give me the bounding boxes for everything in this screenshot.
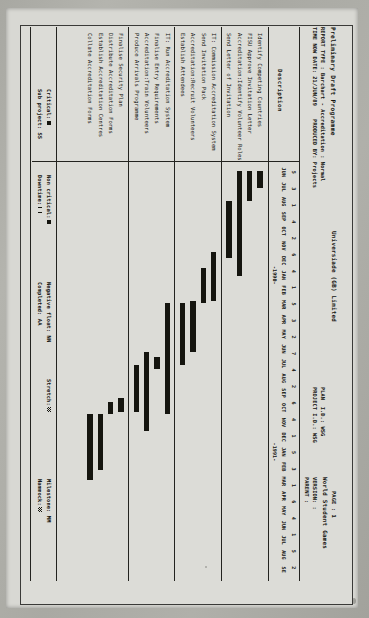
timescale-week-label: 6	[290, 401, 297, 404]
stretch-swatch-icon	[47, 407, 51, 411]
timescale-week-label: 4	[290, 517, 297, 520]
timescale-month-label: AUG	[280, 197, 287, 207]
task-row: FISU Approve Invitation Letter	[244, 27, 254, 581]
timescale-week-label: 5	[290, 451, 297, 454]
timescale-month-label: DEC	[280, 256, 287, 266]
scanned-page-background: Preliminary Draft Programme REPORT TYPE …	[0, 0, 369, 618]
timescale-month-label: APR	[280, 315, 287, 325]
timescale-month-label: NOV	[280, 241, 287, 251]
timescale-week-label: 6	[290, 500, 297, 503]
timescale-month-label: FEB	[280, 285, 287, 295]
timescale-month-label: MAR	[280, 477, 287, 487]
timescale-week-label: 3	[290, 467, 297, 470]
timescale-axis: JUNJULAUGSEPOCTNOVDECJANFEBMARAPRMAYJUNJ…	[269, 165, 297, 577]
task-description: Produce Arrivals Programme	[132, 33, 139, 120]
timescale-week-label: 2	[290, 237, 297, 240]
timescale-month-label: JUL	[280, 535, 287, 545]
timescale-week-label: 4	[290, 418, 297, 421]
timescale-week-label: 2	[290, 566, 297, 569]
task-row: Send Invitation Pack	[198, 27, 208, 581]
task-bar	[98, 414, 103, 470]
task-bar	[190, 301, 195, 353]
timescale-month-label: JAN	[280, 271, 287, 281]
gantt-chart-document: Preliminary Draft Programme REPORT TYPE …	[14, 17, 345, 595]
description-column-header: Description	[275, 69, 283, 112]
task-bar	[118, 398, 123, 412]
group-divider	[175, 27, 176, 581]
timescale-month-label: MAR	[280, 300, 287, 310]
task-description: Finalise Security Plan	[117, 33, 124, 107]
task-row: Accreditation:Train Volunteers	[141, 27, 151, 581]
legend-rule	[56, 27, 57, 581]
task-description: Send Invitation Pack	[199, 33, 206, 100]
task-bar	[87, 414, 92, 480]
timescale-month-label: JUN	[280, 168, 287, 178]
group-divider	[128, 27, 129, 581]
task-description: Send Letter of Invitation	[225, 33, 232, 117]
timescale-week-label: 1	[290, 286, 297, 289]
task-row: Identify Competing Countries	[255, 27, 265, 581]
task-bar	[165, 303, 170, 414]
task-bar	[144, 352, 149, 430]
scan-speck	[205, 566, 207, 568]
timescale-week-label: 1	[290, 533, 297, 536]
project-id: PROJECT I.D.: WSG	[311, 387, 318, 443]
task-bar	[134, 365, 139, 412]
legend-hammock-label: Hammock:	[38, 479, 44, 506]
task-description: Identify Competing Countries	[256, 33, 263, 127]
timescale-week-label: 4	[290, 369, 297, 372]
legend-stretch: Stretch:	[45, 379, 52, 412]
legend-completed-value: AA	[38, 319, 44, 326]
timescale-month-label: JUN	[280, 344, 287, 354]
timescale-month-label: AUG	[280, 550, 287, 560]
timescale-month-label: AUG	[280, 374, 287, 384]
timescale-year-label: -1991-	[271, 443, 278, 462]
timescale-month-label: MAY	[280, 329, 287, 339]
task-description: Distribute Accreditation Forms	[107, 33, 114, 134]
timescale-month-label: OCT	[280, 226, 287, 236]
task-bar	[180, 303, 185, 365]
task-row: Finalise Entry Requirements	[152, 27, 162, 581]
legend-subproject-value: SS	[38, 133, 44, 140]
report-type-line: REPORT TYPE : Barchart - Accreditation :…	[319, 27, 326, 182]
group-divider	[221, 27, 222, 581]
task-description: FISU Approve Invitation Letter	[246, 33, 253, 134]
task-bar	[226, 201, 231, 257]
timescale-month-label: OCT	[280, 403, 287, 413]
parent-label: PARENT :	[303, 477, 310, 503]
noncritical-swatch-icon	[47, 220, 51, 224]
timescale-week-label: 4	[290, 220, 297, 223]
legend-completed: Completed: AA	[36, 282, 43, 326]
timescale-week-label: 5	[290, 550, 297, 553]
task-description: Collate Accreditation Forms	[86, 33, 93, 124]
task-row: Accreditation:Recruit Volunteers	[187, 27, 197, 581]
task-bar	[247, 171, 252, 201]
task-description: Accreditation:Identify Volunteer Roles	[235, 33, 242, 161]
legend-negative-float-value: NN	[46, 336, 52, 343]
legend-noncritical-label: Non critical:	[46, 175, 52, 219]
page-title: Preliminary Draft Programme	[329, 27, 337, 136]
task-row: Establish Attendees	[177, 27, 187, 581]
legend: Critical: Non critical: Negative float: …	[31, 27, 53, 581]
downtime-swatch-icon	[38, 207, 42, 213]
task-row: IT: Run Accreditation System	[162, 27, 172, 581]
task-description: Accreditation:Train Volunteers	[143, 33, 150, 134]
timescale-week-label: 2	[290, 336, 297, 339]
timescale-week-label: 1	[290, 484, 297, 487]
legend-downtime-label: Downtime:	[38, 175, 44, 205]
task-row: Finalise Security Plan	[116, 27, 126, 581]
legend-critical: Critical:	[45, 89, 52, 125]
task-bar	[108, 402, 113, 414]
legend-negative-float: Negative float: NN	[45, 282, 52, 342]
timescale-week-label: 5	[290, 171, 297, 174]
page-number: PAGE : 1	[330, 491, 337, 518]
timescale-month-label: JUL	[280, 359, 287, 369]
legend-milestone-label: Milestone:	[46, 479, 52, 512]
hammock-swatch-icon	[38, 507, 42, 511]
timescale-week-label: 4	[290, 270, 297, 273]
legend-noncritical: Non critical:	[45, 175, 52, 224]
task-bar	[201, 268, 206, 303]
task-bar	[237, 171, 242, 276]
timescale-month-label: SE	[280, 566, 287, 572]
timescale-month-label: DEC	[280, 432, 287, 442]
